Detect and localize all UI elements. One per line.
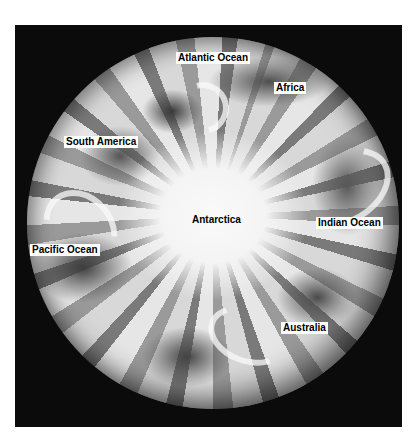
storm-swirl-pacific (28, 175, 132, 281)
storm-swirl-atlantic (167, 72, 238, 143)
label-indian-ocean: Indian Ocean (316, 217, 383, 229)
satellite-image-frame: Atlantic Ocean Africa South America Anta… (15, 25, 402, 427)
label-africa: Africa (274, 82, 306, 94)
label-australia: Australia (281, 322, 328, 334)
label-atlantic-ocean: Atlantic Ocean (176, 52, 250, 64)
label-pacific-ocean: Pacific Ocean (30, 244, 100, 256)
label-south-america: South America (64, 136, 138, 148)
storm-swirl-south (200, 295, 297, 377)
label-antarctica: Antarctica (190, 214, 243, 226)
